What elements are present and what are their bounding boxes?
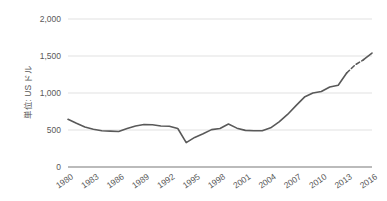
- chart-canvas: 05001,0001,5002,000 19801983198619891992…: [0, 0, 387, 201]
- x-axis-tick-label: 2007: [282, 171, 303, 190]
- line-chart: 05001,0001,5002,000 19801983198619891992…: [0, 0, 387, 201]
- y-axis-title: 単位: US ドル: [23, 65, 33, 120]
- x-axis-tick-label: 2004: [257, 171, 278, 190]
- y-axis-tick-label: 2,000: [40, 14, 62, 24]
- x-axis-tick-label: 1983: [79, 171, 100, 190]
- data-series-line: [68, 53, 372, 143]
- y-axis-tick-label: 1,500: [40, 51, 62, 61]
- x-axis-tick-label: 2013: [333, 171, 354, 190]
- x-axis-tick-label: 1998: [206, 171, 227, 190]
- data-series-line-dashed: [347, 60, 364, 73]
- x-axis-tick-label: 1980: [54, 171, 75, 190]
- x-axis-tick-label: 2001: [231, 171, 252, 190]
- x-axis-tick-label: 1992: [155, 171, 176, 190]
- x-axis-tick-label: 1995: [181, 171, 202, 190]
- y-axis-tick-label: 0: [56, 162, 61, 172]
- x-axis-tick-label: 2016: [358, 171, 379, 190]
- x-axis-tick-label: 2010: [307, 171, 328, 190]
- gridlines-group: [68, 19, 372, 167]
- y-axis-tick-label: 1,000: [40, 88, 62, 98]
- x-axis-tick-labels: 1980198319861989199219951998200120042007…: [54, 171, 379, 190]
- y-axis-tick-label: 500: [47, 125, 61, 135]
- x-axis-tick-label: 1989: [130, 171, 151, 190]
- y-axis-tick-labels: 05001,0001,5002,000: [40, 14, 62, 172]
- x-axis-tick-label: 1986: [105, 171, 126, 190]
